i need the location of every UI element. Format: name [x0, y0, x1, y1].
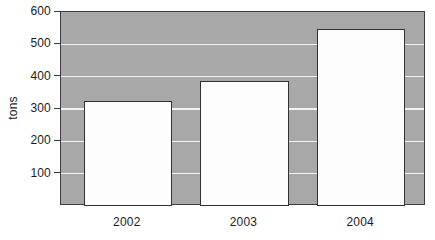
- y-axis-tick-label: 200: [30, 133, 51, 147]
- bar-series: [61, 12, 424, 204]
- plot-area: [60, 11, 425, 205]
- bar: [84, 101, 172, 206]
- y-axis-tick: 600: [30, 4, 60, 18]
- y-axis-tick-label: 600: [30, 4, 51, 18]
- y-axis-tick-label: 400: [30, 69, 51, 83]
- y-axis-tick: 100: [30, 166, 60, 180]
- bar: [200, 81, 288, 205]
- x-axis-tick-label: 2003: [204, 215, 284, 229]
- y-axis-ticks: 100200300400500600: [0, 0, 60, 240]
- y-axis-tick-label: 100: [30, 166, 51, 180]
- x-axis-tick-label: 2004: [320, 215, 400, 229]
- x-axis-tick-label: 2002: [87, 215, 167, 229]
- y-axis-tick: 200: [30, 133, 60, 147]
- bar: [317, 29, 405, 205]
- y-axis-tick: 500: [30, 36, 60, 50]
- y-axis-tick: 300: [30, 101, 60, 115]
- x-axis-ticks: 200220032004: [60, 209, 425, 233]
- bar-chart: tons 100200300400500600 200220032004: [0, 0, 435, 240]
- y-axis-tick-label: 300: [30, 101, 51, 115]
- y-axis-tick: 400: [30, 69, 60, 83]
- y-axis-tick-label: 500: [30, 36, 51, 50]
